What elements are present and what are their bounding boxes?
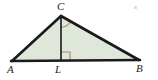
geometry-figure: A L B C xyxy=(0,0,158,80)
base-segment-AB xyxy=(11,60,140,61)
vertex-label-c: C xyxy=(57,1,64,12)
vertex-label-a: A xyxy=(7,64,14,75)
vertex-label-b: B xyxy=(136,63,143,74)
vertex-label-l: L xyxy=(55,64,61,75)
scan-artifact-speck xyxy=(134,6,137,9)
triangle-diagram-svg xyxy=(0,0,158,80)
